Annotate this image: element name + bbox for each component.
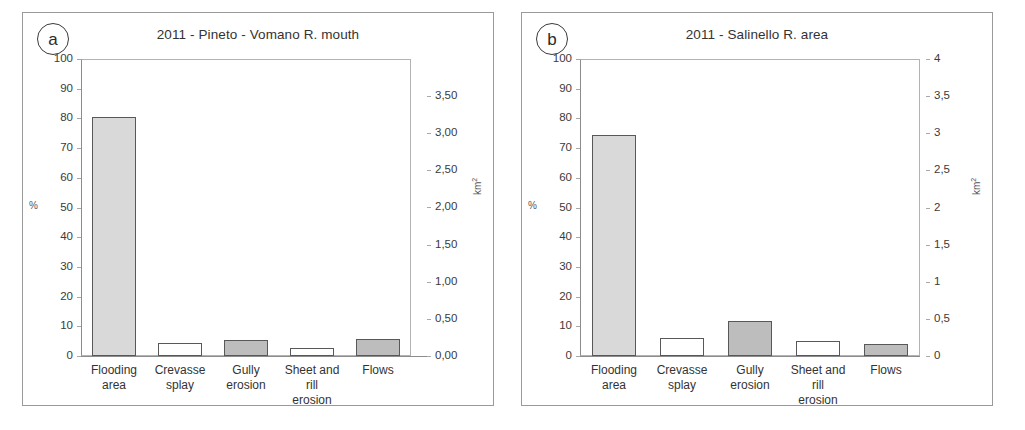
category-label-line: erosion (716, 378, 784, 393)
y-axis-tick-mark (576, 59, 580, 60)
secondary-y-axis-tick-mark (427, 170, 431, 171)
secondary-y-axis-tick-label: 1,50 (435, 239, 457, 251)
secondary-y-axis-tick-label: 1,5 (934, 239, 950, 251)
secondary-y-axis-tick-mark (926, 356, 930, 357)
category-label-line: erosion (784, 393, 852, 408)
secondary-y-axis-tick-mark (926, 319, 930, 320)
secondary-y-axis-tick-label: 3,5 (934, 90, 950, 102)
y-axis-unit-b: % (528, 201, 537, 211)
secondary-y-axis-tick-mark (427, 319, 431, 320)
y-axis-unit-a: % (29, 201, 38, 211)
y-axis-tick-label: 80 (60, 112, 73, 124)
category-label-line: Crevasse (147, 363, 213, 378)
y-axis-tick-label: 100 (54, 53, 73, 65)
secondary-y-axis-tick-mark (926, 133, 930, 134)
category-label-line: area (580, 378, 648, 393)
figure-two-bar-charts: a 2011 - Pineto - Vomano R. mouth % km2 … (0, 0, 1025, 430)
category-label-line: erosion (279, 393, 345, 408)
secondary-y-axis-tick-mark (427, 207, 431, 208)
y-axis-tick-mark (576, 356, 580, 357)
y-axis-tick-label: 20 (60, 291, 73, 303)
chart-panel-a: a 2011 - Pineto - Vomano R. mouth % km2 … (22, 12, 494, 406)
x-axis-category-label: Floodingarea (580, 363, 648, 408)
category-label-line: Crevasse (648, 363, 716, 378)
y-axis-tick-mark (77, 237, 81, 238)
y-axis-tick-mark (576, 267, 580, 268)
x-axis-category-label: Flows (345, 363, 411, 408)
secondary-y-axis-tick-label: 2 (934, 202, 940, 214)
y-axis-tick-mark (77, 356, 81, 357)
y-axis-tick-mark (77, 118, 81, 119)
x-axis-category-label: Crevassesplay (147, 363, 213, 408)
x-axis-category-label: Sheet and rillerosion (279, 363, 345, 408)
secondary-y-axis-ticks-a: 3,503,002,502,001,501,000,500,00 (427, 59, 473, 356)
y-axis-tick-label: 100 (553, 53, 572, 65)
secondary-y-axis-tick-mark (427, 356, 431, 357)
y-axis-tick-label: 30 (559, 261, 572, 273)
x-axis-category-labels-b: FloodingareaCrevassesplayGullyerosionShe… (580, 363, 920, 408)
category-label-line: Flooding (580, 363, 648, 378)
y-axis-tick-label: 50 (559, 202, 572, 214)
x-axis-category-label: Flows (852, 363, 920, 408)
secondary-y-axis-tick-label: 2,00 (435, 201, 457, 213)
x-axis-category-label: Gullyerosion (716, 363, 784, 408)
y-axis-tick-label: 40 (60, 231, 73, 243)
secondary-y-axis-tick-label: 0,50 (435, 313, 457, 325)
y-axis-tick-mark (576, 326, 580, 327)
y-axis-tick-mark (77, 148, 81, 149)
y-axis-tick-label: 90 (559, 83, 572, 95)
x-axis-category-label: Crevassesplay (648, 363, 716, 408)
y-axis-ticks-b: 1009080706050403020100 (540, 59, 576, 356)
y-axis-tick-mark (77, 89, 81, 90)
x-axis-category-labels-a: FloodingareaCrevassesplayGullyerosionShe… (81, 363, 411, 408)
secondary-y-axis-tick-mark (427, 96, 431, 97)
panel-tag-b: b (536, 23, 568, 55)
km-label-b: km (971, 182, 982, 195)
y-axis-tick-label: 70 (559, 142, 572, 154)
y-axis-tick-label: 0 (566, 350, 572, 362)
secondary-y-axis-tick-label: 4 (934, 53, 940, 65)
secondary-y-axis-tick-label: 2,50 (435, 164, 457, 176)
plot-area-b (580, 59, 920, 356)
category-label-line: Flooding (81, 363, 147, 378)
category-label-line: Flows (345, 363, 411, 378)
x-axis-category-label: Sheet and rillerosion (784, 363, 852, 408)
y-axis-tick-mark (77, 267, 81, 268)
km-label-a: km (472, 182, 483, 195)
secondary-y-axis-tick-mark (926, 170, 930, 171)
y-axis-tick-mark (576, 118, 580, 119)
secondary-y-axis-tick-label: 3,00 (435, 127, 457, 139)
y-axis-tick-mark (576, 297, 580, 298)
panel-tag-a: a (37, 23, 69, 55)
secondary-y-axis-tick-mark (427, 133, 431, 134)
y-axis-tick-label: 20 (559, 291, 572, 303)
secondary-y-axis-tick-label: 2,5 (934, 164, 950, 176)
category-label-line: splay (648, 378, 716, 393)
y-axis-tick-label: 50 (60, 202, 73, 214)
y-axis-tick-label: 60 (559, 172, 572, 184)
y-axis-tick-mark (77, 208, 81, 209)
secondary-y-axis-tick-mark (926, 245, 930, 246)
secondary-y-axis-tick-mark (926, 59, 930, 60)
secondary-y-axis-tick-label: 0,5 (934, 313, 950, 325)
plot-area-a (81, 59, 411, 356)
y-axis-tick-mark (576, 237, 580, 238)
secondary-y-axis-tick-mark (427, 282, 431, 283)
category-label-line: Flows (852, 363, 920, 378)
secondary-y-axis-tick-label: 0,00 (435, 350, 457, 362)
y-axis-tick-label: 30 (60, 261, 73, 273)
chart-panel-b: b 2011 - Salinello R. area % km2 1009080… (521, 12, 993, 406)
secondary-y-axis-tick-label: 0 (934, 350, 940, 362)
y-axis-tick-mark (576, 178, 580, 179)
y-axis-tick-label: 40 (559, 231, 572, 243)
y-axis-tick-mark (77, 59, 81, 60)
x-axis-category-label: Gullyerosion (213, 363, 279, 408)
x-axis-b (580, 356, 920, 357)
category-label-line: Gully (213, 363, 279, 378)
x-axis-a (81, 356, 431, 357)
secondary-y-axis-ticks-b: 43,532,521,510,50 (926, 59, 972, 356)
category-label-line: area (81, 378, 147, 393)
y-axis-tick-label: 0 (67, 350, 73, 362)
y-axis-tick-label: 80 (559, 112, 572, 124)
y-axis-ticks-a: 1009080706050403020100 (41, 59, 77, 356)
